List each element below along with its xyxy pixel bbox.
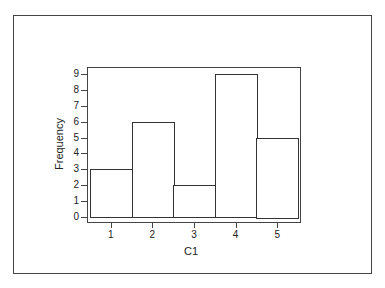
histogram-bar	[215, 74, 258, 219]
x-tick-label: 3	[188, 229, 200, 240]
y-tick	[81, 138, 87, 139]
x-tick-label: 5	[271, 229, 283, 240]
y-tick	[81, 122, 87, 123]
x-tick	[277, 223, 278, 228]
y-tick	[81, 217, 87, 218]
y-tick	[81, 153, 87, 154]
y-tick-label: 7	[67, 100, 79, 111]
y-tick-label: 5	[67, 132, 79, 143]
x-tick-label: 4	[230, 229, 242, 240]
y-tick-label: 3	[67, 163, 79, 174]
y-tick-label: 2	[67, 179, 79, 190]
x-tick	[194, 223, 195, 228]
y-tick-label: 0	[67, 211, 79, 222]
x-tick-label: 1	[105, 229, 117, 240]
x-tick	[111, 223, 112, 228]
y-tick	[81, 90, 87, 91]
x-tick-label: 2	[146, 229, 158, 240]
histogram-bar	[256, 138, 299, 219]
x-tick	[152, 223, 153, 228]
y-tick-label: 8	[67, 84, 79, 95]
histogram-bar	[90, 169, 133, 218]
histogram-bar	[173, 185, 216, 218]
y-tick	[81, 201, 87, 202]
y-tick-label: 9	[67, 68, 79, 79]
y-tick	[81, 185, 87, 186]
y-tick	[81, 169, 87, 170]
y-axis-title: Frequency	[53, 118, 65, 170]
y-tick	[81, 106, 87, 107]
x-tick	[236, 223, 237, 228]
histogram-bar	[132, 122, 175, 219]
y-tick-label: 6	[67, 116, 79, 127]
y-tick-label: 1	[67, 195, 79, 206]
x-axis-title: C1	[184, 245, 198, 257]
y-tick	[81, 74, 87, 75]
y-tick-label: 4	[67, 147, 79, 158]
